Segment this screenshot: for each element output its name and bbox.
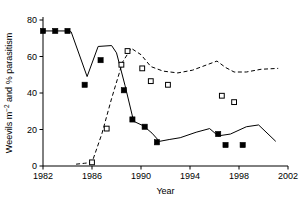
data-point-filled-square [154, 140, 159, 145]
data-point-filled-square [142, 124, 147, 129]
data-series [40, 28, 278, 164]
y-tick-label: 60 [27, 52, 37, 62]
chart-plot-area: 020406080198219861990199419982002 YearWe… [0, 0, 300, 210]
data-point-filled-square [121, 88, 126, 93]
data-point-open-square [148, 79, 153, 84]
x-axis-title: Year [156, 186, 174, 196]
data-point-filled-square [82, 82, 87, 87]
x-tick-label: 1986 [82, 171, 102, 181]
data-point-open-square [166, 82, 171, 87]
series-1 [40, 28, 275, 147]
y-tick-label: 80 [27, 15, 37, 25]
x-tick-label: 1998 [229, 171, 249, 181]
data-point-filled-square [240, 142, 245, 147]
data-point-open-square [90, 160, 95, 165]
tick-labels: 020406080198219861990199419982002 [27, 15, 298, 181]
tick-marks [40, 20, 289, 170]
x-tick-label: 2002 [278, 171, 298, 181]
data-point-open-square [140, 66, 145, 71]
data-point-filled-square [223, 142, 228, 147]
x-tick-label: 1990 [131, 171, 151, 181]
series-line [43, 31, 276, 141]
data-point-open-square [125, 49, 130, 54]
series-line [76, 48, 278, 164]
data-point-filled-square [216, 131, 221, 136]
axes [43, 17, 288, 166]
y-axis-title: Weevils m−2 and % parasitism [3, 33, 15, 153]
series-2 [76, 48, 278, 164]
data-point-filled-square [130, 117, 135, 122]
data-point-filled-square [65, 28, 70, 33]
data-point-open-square [219, 93, 224, 98]
x-tick-label: 1982 [33, 171, 53, 181]
data-point-open-square [119, 62, 124, 67]
data-point-filled-square [98, 58, 103, 63]
y-tick-label: 0 [32, 161, 37, 171]
data-point-open-square [232, 100, 237, 105]
y-tick-label: 20 [27, 125, 37, 135]
y-tick-label: 40 [27, 88, 37, 98]
data-point-filled-square [40, 28, 45, 33]
chart-figure: 020406080198219861990199419982002 YearWe… [0, 0, 300, 210]
data-point-filled-square [53, 28, 58, 33]
data-point-open-square [104, 126, 109, 131]
x-tick-label: 1994 [180, 171, 200, 181]
